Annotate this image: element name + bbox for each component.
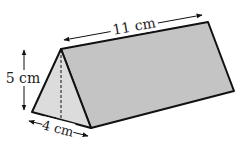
prism-side-face <box>61 22 234 128</box>
height-label: 5 cm <box>6 70 40 86</box>
triangular-prism-diagram: 11 cm 5 cm 4 cm <box>0 0 247 158</box>
